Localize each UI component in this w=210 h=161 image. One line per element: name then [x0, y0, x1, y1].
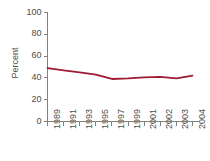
x-axis-ticks — [48, 122, 193, 126]
plot-area — [0, 0, 210, 161]
data-series-line — [48, 68, 193, 79]
axis-lines — [47, 12, 199, 122]
line-chart: Percent 020406080100 1989199119931995199… — [0, 0, 210, 161]
y-axis-ticks — [44, 13, 48, 122]
